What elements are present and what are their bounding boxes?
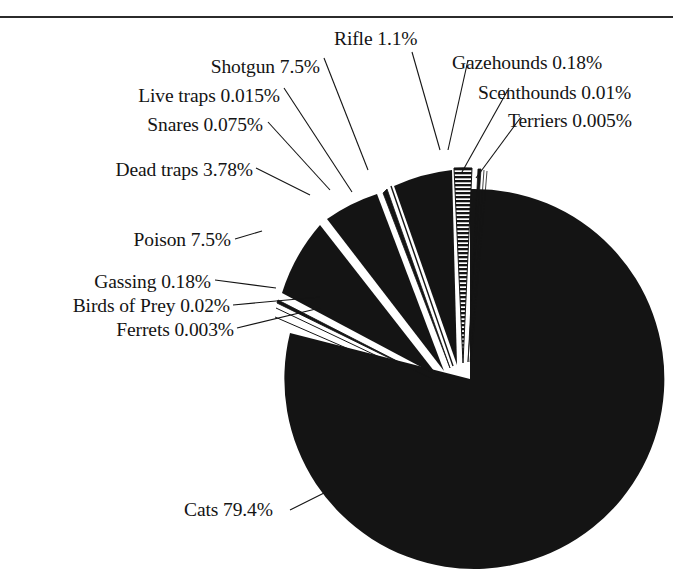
leader-line-snares xyxy=(268,122,330,190)
pie-label-gassing: Gassing 0.18% xyxy=(13,272,211,292)
pie-label-scenthounds: Scenthounds 0.01% xyxy=(478,83,631,103)
pie-label-birds-of-prey: Birds of Prey 0.02% xyxy=(8,296,230,316)
pie-label-gazehounds: Gazehounds 0.18% xyxy=(452,53,602,73)
pie-label-rifle: Rifle 1.1% xyxy=(334,29,417,49)
pie-label-shotgun: Shotgun 7.5% xyxy=(43,57,320,77)
leader-line-gazehounds xyxy=(448,60,468,150)
leader-line-poison xyxy=(235,231,262,239)
leader-line-gassing xyxy=(215,280,276,288)
pie-label-cats: Cats 79.4% xyxy=(184,500,273,520)
pie-label-poison: Poison 7.5% xyxy=(13,230,231,250)
pie-label-dead-traps: Dead traps 3.78% xyxy=(13,160,253,180)
pie-label-snares: Snares 0.075% xyxy=(23,115,263,135)
pie-label-ferrets: Ferrets 0.003% xyxy=(8,320,234,340)
pie-chart-figure: Rifle 1.1% Gazehounds 0.18% Scenthounds … xyxy=(0,0,694,587)
leader-line-cats xyxy=(290,490,330,510)
leader-line-dead-traps xyxy=(256,168,310,195)
pie-label-live-traps: Live traps 0.015% xyxy=(23,86,280,106)
leader-line-rifle xyxy=(412,52,440,150)
pie-label-terriers: Terriers 0.005% xyxy=(508,111,632,131)
leader-line-shotgun xyxy=(324,58,368,170)
